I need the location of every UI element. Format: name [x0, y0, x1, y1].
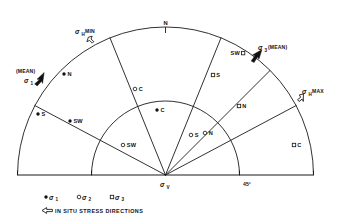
sigma-1-mean-sub: 1 [31, 81, 34, 86]
sigma2-marker-icon [121, 143, 125, 147]
point-sigma2-n-label: N [209, 130, 213, 136]
point-sigma3-sw-label: SW [231, 50, 241, 56]
radial-line-45deg [166, 70, 271, 175]
origin-label-sub: V [167, 185, 171, 190]
sigma-h-min-arrow-icon [87, 36, 94, 43]
point-sigma2-s: S [189, 132, 199, 138]
point-sigma2-c: C [133, 86, 143, 92]
point-sigma1-n-label: N [68, 71, 72, 77]
legend-item-sigma2: σ 2 [77, 194, 91, 203]
data-points: N S SW C C SW S N [36, 50, 301, 148]
sigma-h-max-suffix: MAX [312, 88, 324, 94]
legend-sigma1-sub: 1 [55, 197, 58, 202]
radial-line-upper-left [110, 38, 166, 175]
legend-sigma3-marker-icon [110, 195, 113, 198]
sigma-h-min-suffix: MIN [85, 28, 95, 34]
legend-stress-directions-label: IN SITU STRESS DIRECTIONS [55, 208, 143, 214]
sigma3-marker-icon [211, 73, 214, 76]
point-sigma2-sw: SW [121, 142, 136, 148]
legend-sigma3-base: σ [115, 194, 120, 201]
sigma3-marker-icon [241, 51, 244, 54]
point-sigma3-c: C [292, 142, 301, 148]
annotation-sigma-1-mean: (MEAN) σ 1 [16, 68, 44, 86]
sigma-h-min-base: σ [75, 28, 80, 35]
legend-sigma1-base: σ [49, 194, 54, 201]
legend: σ 1 σ 2 σ 3 IN SITU STRESS DIRECTIONS [42, 194, 143, 214]
point-sigma3-c-label: C [297, 142, 301, 148]
point-sigma3-n: N [237, 103, 246, 109]
stress-direction-stereonet-figure: N σ V 45° σ H MIN (MEAN) σ 1 σ 3 (MEAN) … [0, 0, 340, 222]
legend-sigma3-sub: 3 [121, 197, 124, 202]
annotation-sigma-3-mean: σ 3 (MEAN) [251, 44, 287, 63]
point-sigma1-sw: SW [68, 118, 83, 124]
legend-item-sigma1: σ 1 [44, 194, 58, 203]
point-sigma1-c: C [155, 107, 164, 113]
inner-arc [92, 101, 240, 175]
sigma-3-mean-suffix: (MEAN) [268, 44, 287, 50]
point-sigma2-c-label: C [139, 86, 143, 92]
stereonet-svg: N σ V 45° σ H MIN (MEAN) σ 1 σ 3 (MEAN) … [0, 0, 340, 222]
radial-line-right [166, 106, 297, 176]
sigma-3-mean-base: σ [258, 44, 263, 51]
sigma2-marker-icon [203, 131, 207, 135]
sigma1-marker-icon [62, 72, 65, 75]
radial-line-upper-right [166, 38, 222, 175]
origin-label: σ V [160, 181, 171, 190]
sigma-1-mean-prefix: (MEAN) [16, 68, 35, 74]
point-sigma3-sw: SW [231, 50, 245, 56]
sigma2-marker-icon [189, 133, 193, 137]
legend-item-sigma3: σ 3 [110, 194, 124, 203]
sigma-h-max-arrow-icon [298, 94, 304, 102]
sigma-1-mean-arrow-icon [35, 73, 45, 87]
sigma2-marker-icon [133, 87, 137, 91]
angle-45-label: 45° [243, 181, 251, 187]
north-label: N [163, 20, 167, 26]
point-sigma1-n: N [62, 71, 71, 77]
point-sigma2-sw-label: SW [127, 142, 137, 148]
point-sigma3-n-label: N [242, 103, 246, 109]
origin-label-base: σ [160, 181, 165, 188]
sigma3-marker-icon [292, 143, 295, 146]
sigma3-marker-icon [237, 104, 240, 107]
legend-sigma2-sub: 2 [88, 197, 91, 202]
point-sigma3-s-label: S [216, 72, 220, 78]
point-sigma1-sw-label: SW [74, 118, 84, 124]
legend-sigma2-base: σ [82, 194, 87, 201]
legend-sigma1-marker-icon [44, 195, 47, 198]
radial-line-left [35, 106, 166, 176]
point-sigma2-s-label: S [195, 132, 199, 138]
legend-sigma2-marker-icon [77, 195, 81, 199]
point-sigma3-s: S [211, 72, 220, 78]
annotation-sigma-h-min: σ H MIN [75, 28, 95, 43]
sigma-1-mean-base: σ [24, 77, 29, 84]
sigma-3-mean-arrow-icon [251, 50, 262, 63]
point-sigma1-s-label: S [42, 111, 46, 117]
legend-stress-direction-arrow-icon [42, 208, 52, 214]
sigma1-marker-icon [68, 119, 71, 122]
sigma1-marker-icon [36, 112, 39, 115]
point-sigma1-c-label: C [161, 107, 165, 113]
point-sigma1-s: S [36, 111, 45, 117]
legend-item-stress-directions: IN SITU STRESS DIRECTIONS [42, 208, 143, 214]
sigma1-marker-icon [155, 108, 158, 111]
annotation-sigma-h-max: σ H MAX [298, 88, 325, 102]
